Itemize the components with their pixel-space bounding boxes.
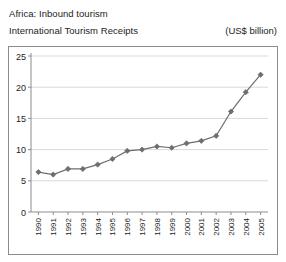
chart-units-label: (US$ billion) (225, 25, 277, 36)
data-point-marker (51, 172, 56, 177)
x-tick-label: 2002 (212, 217, 221, 235)
y-tick-label: 15 (16, 114, 26, 124)
data-point-marker (80, 166, 85, 171)
x-tick-label: 1996 (123, 217, 132, 235)
data-point-marker (154, 144, 159, 149)
x-tick-label: 1993 (79, 217, 88, 235)
data-point-marker (65, 166, 70, 171)
x-tick-label: 2001 (197, 217, 206, 235)
data-point-marker (110, 156, 115, 161)
x-tick-label: 1991 (49, 217, 58, 235)
x-tick-label: 2004 (242, 217, 251, 235)
y-tick-label: 0 (21, 208, 26, 218)
data-point-marker (184, 141, 189, 146)
x-tick-label: 1999 (168, 217, 177, 235)
x-tick-label: 1997 (138, 217, 147, 235)
data-point-marker (36, 169, 41, 174)
x-tick-label: 2003 (227, 217, 236, 235)
chart-subtitle: Africa: Inbound tourism (9, 8, 108, 19)
data-line (38, 75, 260, 175)
data-point-marker (139, 147, 144, 152)
x-tick-label: 1994 (94, 217, 103, 235)
y-tick-label: 20 (16, 83, 26, 93)
data-point-marker (199, 138, 204, 143)
chart-page: Africa: Inbound tourism International To… (0, 0, 286, 262)
y-tick-label: 10 (16, 145, 26, 155)
data-point-marker (95, 162, 100, 167)
chart-title: International Tourism Receipts (9, 25, 138, 36)
y-tick-label: 5 (21, 176, 26, 186)
x-tick-label: 1990 (34, 217, 43, 235)
y-tick-label: 25 (16, 52, 26, 62)
line-chart: 0510152025199019911992199319941995199619… (9, 47, 277, 254)
x-tick-label: 1992 (64, 217, 73, 235)
x-tick-label: 2000 (183, 217, 192, 235)
chart-frame: 0510152025199019911992199319941995199619… (8, 46, 278, 255)
x-tick-label: 1998 (153, 217, 162, 235)
x-tick-label: 2005 (257, 217, 266, 235)
x-tick-label: 1995 (108, 217, 117, 235)
data-point-marker (125, 148, 130, 153)
data-point-marker (214, 133, 219, 138)
